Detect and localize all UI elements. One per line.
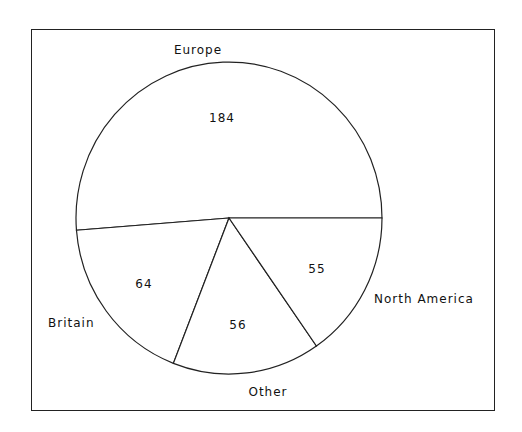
slice-value-label: 55 [308, 262, 325, 276]
slice-category-label: Britain [48, 316, 95, 330]
slice-value-label: 56 [229, 318, 246, 332]
slice-value-label: 64 [135, 277, 152, 291]
slice-value-label: 184 [209, 111, 235, 125]
slice-category-label: North America [374, 292, 474, 306]
slice-category-label: Other [248, 385, 287, 399]
slice-category-label: Europe [174, 43, 222, 57]
pie-slice-europe [76, 62, 382, 230]
pie-chart: 184Europe64Britain56Other55North America [0, 0, 522, 432]
